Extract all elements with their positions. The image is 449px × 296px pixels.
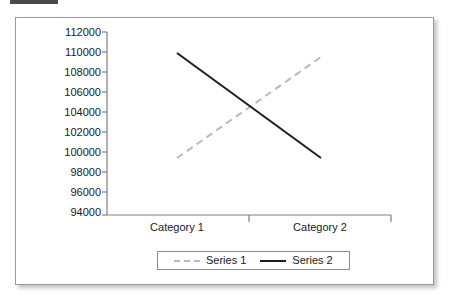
chart-card: 112000 110000 108000 106000 104000 10200… (15, 17, 434, 285)
legend-solid-line-icon (260, 256, 286, 265)
legend-label: Series 1 (206, 255, 246, 266)
plot-area (16, 18, 435, 286)
legend-dashed-line-icon (174, 256, 200, 265)
x-axis-tick-label-category-1: Category 1 (137, 221, 217, 233)
x-axis-tick-label-category-2: Category 2 (280, 221, 360, 233)
legend-entry-series-2[interactable]: Series 2 (260, 255, 332, 266)
legend-entry-series-1[interactable]: Series 1 (174, 255, 246, 266)
top-edge-fragment (10, 0, 58, 4)
legend-label: Series 2 (292, 255, 332, 266)
chart-legend: Series 1 Series 2 (157, 251, 350, 270)
